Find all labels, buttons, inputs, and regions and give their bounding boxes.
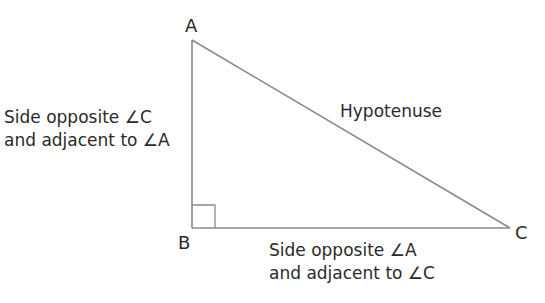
vertex-c-label: C — [515, 222, 528, 243]
vertex-a-label: A — [185, 15, 197, 36]
side-bc-label-line1: Side opposite ∠A — [269, 239, 417, 261]
side-ab-label-line1: Side opposite ∠C — [4, 106, 152, 128]
vertex-b-label: B — [178, 232, 190, 253]
hypotenuse-label: Hypotenuse — [340, 100, 442, 122]
side-ab-label-line2: and adjacent to ∠A — [4, 129, 170, 151]
hypotenuse-ac — [192, 40, 510, 228]
right-angle-marker — [192, 205, 215, 228]
side-bc-label-line2: and adjacent to ∠C — [269, 262, 435, 284]
